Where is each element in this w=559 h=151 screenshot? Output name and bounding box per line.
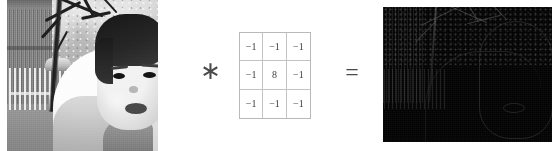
- photo-film-grain: [7, 0, 158, 151]
- output-edge-image: [383, 7, 552, 142]
- kernel-cell-r1c1: −1: [240, 33, 263, 61]
- input-photograph: [7, 0, 158, 151]
- kernel-cell-r3c3: −1: [287, 90, 310, 118]
- convolution-figure: ∗ −1 −1 −1 −1 8 −1 −1 −1 −1 =: [0, 0, 559, 151]
- equals-operator-icon: =: [338, 60, 366, 84]
- kernel-cell-r1c3: −1: [287, 33, 310, 61]
- kernel-cell-r3c2: −1: [263, 90, 286, 118]
- kernel-cell-r3c1: −1: [240, 90, 263, 118]
- result-noise-grain: [383, 7, 552, 142]
- kernel-cell-r1c2: −1: [263, 33, 286, 61]
- kernel-cell-r2c1: −1: [240, 61, 263, 89]
- convolution-operator-icon: ∗: [196, 58, 224, 83]
- kernel-cell-r2c2: 8: [263, 61, 286, 89]
- laplacian-kernel-matrix: −1 −1 −1 −1 8 −1 −1 −1 −1: [239, 32, 311, 119]
- kernel-cell-r2c3: −1: [287, 61, 310, 89]
